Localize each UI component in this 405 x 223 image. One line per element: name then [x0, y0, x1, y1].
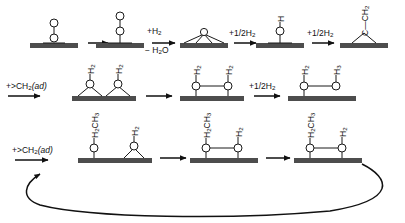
- label-add-ch2-ad-row3: +>CH2(ad): [12, 146, 53, 155]
- row3-step2-species: [190, 137, 258, 163]
- carbon-atom: [224, 82, 232, 90]
- metal-surface-bar: [288, 96, 356, 101]
- species-label-h3-a: H3: [333, 65, 342, 75]
- metal-surface-bar: [294, 158, 362, 163]
- metal-surface-bar: [190, 158, 258, 163]
- species-label-h2-f: H2: [131, 126, 140, 136]
- carbon-atom: [114, 80, 122, 88]
- metal-surface-bar: [30, 43, 78, 48]
- carbon-atom: [234, 144, 242, 152]
- c-surface-bond: [204, 34, 224, 43]
- label-half-h2-1: +1/2H2: [229, 29, 255, 38]
- metal-surface-bar: [78, 158, 152, 163]
- carbon-atom: [200, 28, 207, 35]
- carbon-atom: [300, 82, 308, 90]
- carbon-atom: [90, 144, 98, 152]
- species-label-h-row1: H: [277, 16, 286, 22]
- species-label-h2-e: H2: [301, 65, 310, 75]
- label-half-h2-3: +1/2H2: [249, 82, 275, 91]
- metal-surface-bar: [72, 96, 136, 101]
- row1-step3-species: [180, 28, 228, 48]
- label-add-ch2-ad-row2: +>CH2(ad): [6, 82, 47, 91]
- reaction-scheme-diagram: [0, 0, 405, 223]
- label-half-h2-2: +1/2H2: [307, 29, 333, 38]
- species-label-ch2ch3-b: H2CH3: [203, 113, 212, 138]
- metal-surface-bar: [180, 43, 228, 48]
- label-minus-h2o: − H2O: [145, 46, 169, 55]
- carbon-atom: [50, 34, 58, 42]
- species-label-ch2ch3-c: H2CH3: [307, 113, 316, 138]
- carbon-atom: [332, 82, 340, 90]
- carbon-atom: [338, 144, 346, 152]
- species-label-ch2ch3-a: H2CH3: [91, 113, 100, 138]
- carbon-atom: [306, 144, 314, 152]
- species-label-h2-c: H2: [193, 65, 202, 75]
- row2-step1-species: [72, 74, 136, 101]
- row3-step3-species: [294, 137, 362, 163]
- carbon-atom: [116, 27, 124, 35]
- carbon-atom: [86, 80, 94, 88]
- metal-surface-bar: [340, 43, 388, 48]
- species-label-h2-h: H2: [339, 127, 348, 137]
- row2-step3-species: [288, 75, 356, 101]
- species-label-ch2-row1: C—CH2: [361, 6, 370, 36]
- c-surface-bond: [184, 34, 204, 43]
- oxygen-atom: [50, 19, 58, 27]
- carbon-atom: [130, 142, 138, 150]
- species-label-h2-a: H2: [87, 64, 96, 74]
- row1-step4-species: [256, 22, 304, 48]
- carbon-atom: [202, 144, 210, 152]
- row1-step1-species: [30, 19, 78, 48]
- carbon-atom: [276, 27, 284, 35]
- metal-surface-bar: [180, 96, 244, 101]
- species-label-h2-g: H2: [235, 127, 244, 137]
- row3-step1-species: [78, 136, 152, 163]
- metal-surface-bar: [256, 43, 304, 48]
- row2-step2-species: [180, 75, 244, 101]
- metal-surface-bar: [96, 43, 144, 48]
- label-plus-h2: +H2: [147, 27, 162, 36]
- species-label-h2-b: H2: [115, 64, 124, 74]
- carbon-atom: [192, 82, 200, 90]
- species-label-h2-d: H2: [225, 65, 234, 75]
- oxygen-atom: [116, 12, 124, 20]
- recycle-loop-arrow: [26, 164, 382, 217]
